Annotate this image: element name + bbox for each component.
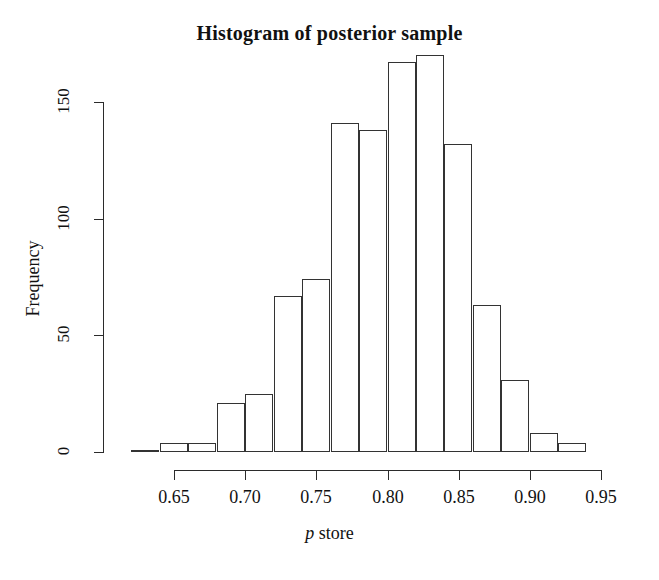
histogram-bar: [501, 380, 529, 452]
histogram-bar: [530, 433, 558, 452]
histogram-bar: [473, 305, 501, 452]
histogram-bar: [302, 279, 330, 452]
histogram-bar: [359, 130, 387, 452]
histogram-bar: [444, 144, 472, 452]
histogram-bar: [331, 123, 359, 452]
histogram-bar: [188, 443, 216, 452]
histogram-bar: [217, 403, 245, 452]
histogram-bar: [416, 55, 444, 452]
histogram-bar: [388, 62, 416, 452]
histogram-bar: [131, 450, 159, 452]
histogram-bar: [274, 296, 302, 452]
histogram-bar: [558, 443, 586, 452]
histogram-bar: [245, 394, 273, 452]
histogram-bar: [160, 443, 188, 452]
histogram-bars-layer: [0, 0, 659, 580]
histogram-plot: Histogram of posterior sample Frequency …: [0, 0, 659, 580]
